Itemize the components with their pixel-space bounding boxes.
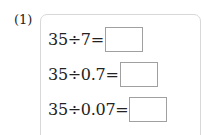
equation-expression: 35÷0.7= bbox=[48, 65, 119, 84]
equation-row-3: 35÷0.07= bbox=[48, 97, 167, 122]
answer-box[interactable] bbox=[105, 27, 143, 52]
equation-row-1: 35÷7= bbox=[48, 27, 143, 52]
equation-row-2: 35÷0.7= bbox=[48, 62, 158, 87]
answer-box[interactable] bbox=[129, 97, 167, 122]
equation-expression: 35÷7= bbox=[48, 30, 104, 49]
equation-expression: 35÷0.07= bbox=[48, 100, 128, 119]
problem-label: (1) bbox=[14, 12, 32, 27]
answer-box[interactable] bbox=[120, 62, 158, 87]
